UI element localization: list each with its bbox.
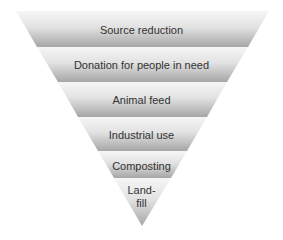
label-landfill-line1: Land- bbox=[0, 184, 283, 197]
label-source-reduction: Source reduction bbox=[0, 24, 283, 37]
label-landfill-line2: fill bbox=[0, 197, 283, 210]
label-composting: Composting bbox=[0, 160, 283, 173]
label-industrial-use: Industrial use bbox=[0, 129, 283, 142]
label-donation: Donation for people in need bbox=[0, 59, 283, 72]
label-animal-feed: Animal feed bbox=[0, 94, 283, 107]
